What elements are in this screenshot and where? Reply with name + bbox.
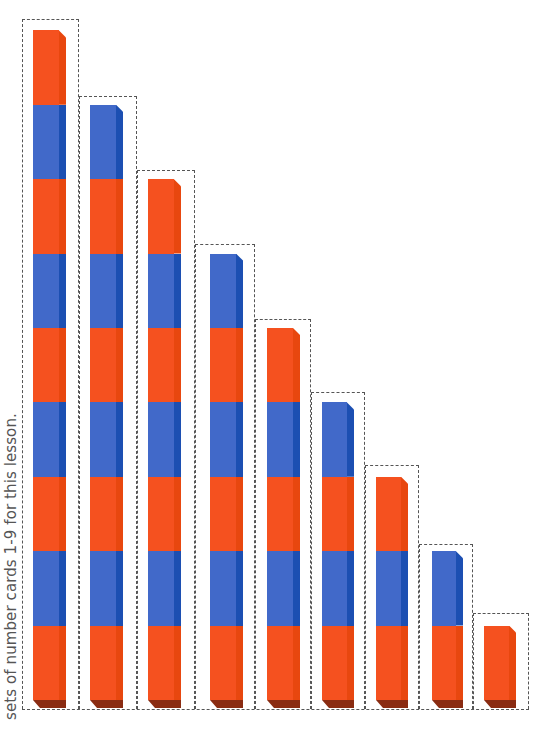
- cube-orange: [148, 477, 181, 551]
- cube-orange: [267, 328, 300, 402]
- cube-blue: [267, 402, 300, 476]
- cube-blue: [210, 254, 243, 328]
- rod-2: [432, 551, 463, 700]
- cube-blue: [90, 551, 123, 625]
- cube-blue: [210, 402, 243, 476]
- cube-orange: [90, 179, 123, 253]
- cube-orange: [267, 626, 300, 700]
- rod-4: [322, 402, 354, 700]
- rod-8: [90, 105, 123, 700]
- cube-blue: [267, 551, 300, 625]
- rod-9: [33, 30, 66, 700]
- caption: sets of number cards 1-9 for this lesson…: [2, 413, 20, 720]
- cube-blue: [33, 402, 66, 476]
- cube-blue: [148, 551, 181, 625]
- cube-orange: [90, 328, 123, 402]
- cube-orange: [33, 477, 66, 551]
- cube-blue: [322, 402, 354, 476]
- cube-orange: [267, 477, 300, 551]
- cube-blue: [376, 551, 408, 625]
- cube-blue: [33, 105, 66, 179]
- baseline-dashed: [22, 709, 529, 710]
- rod-7: [148, 179, 181, 700]
- cube-orange: [33, 328, 66, 402]
- cube-blue: [33, 254, 66, 328]
- cube-blue: [210, 551, 243, 625]
- rod-6: [210, 254, 243, 700]
- cube-orange: [33, 626, 66, 700]
- cube-orange: [376, 477, 408, 551]
- cube-orange: [33, 30, 66, 104]
- cube-blue: [90, 254, 123, 328]
- cube-orange: [376, 626, 408, 700]
- rod-3: [376, 477, 408, 700]
- cube-orange: [484, 626, 516, 700]
- cube-orange: [210, 626, 243, 700]
- cube-blue: [90, 402, 123, 476]
- cube-orange: [148, 328, 181, 402]
- cube-orange: [432, 626, 463, 700]
- cube-blue: [90, 105, 123, 179]
- cube-orange: [90, 626, 123, 700]
- cube-orange: [322, 626, 354, 700]
- number-rods-diagram: sets of number cards 1-9 for this lesson…: [0, 0, 543, 734]
- cube-blue: [33, 551, 66, 625]
- rod-1: [484, 626, 516, 700]
- cube-blue: [432, 551, 463, 625]
- cube-orange: [322, 477, 354, 551]
- cube-orange: [148, 179, 181, 253]
- cube-orange: [90, 477, 123, 551]
- cube-orange: [33, 179, 66, 253]
- cube-orange: [148, 626, 181, 700]
- cube-blue: [148, 254, 181, 328]
- cube-orange: [210, 477, 243, 551]
- cube-blue: [148, 402, 181, 476]
- rod-5: [267, 328, 300, 700]
- cube-orange: [210, 328, 243, 402]
- cube-blue: [322, 551, 354, 625]
